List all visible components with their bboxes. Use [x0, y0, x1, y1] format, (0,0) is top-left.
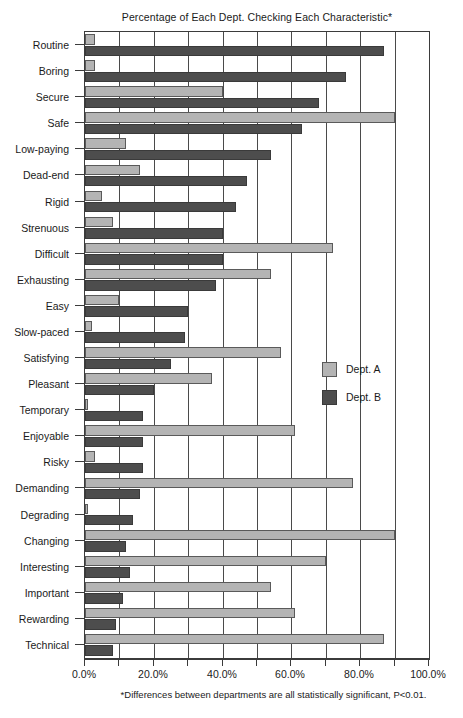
y-axis-label: Routine — [33, 39, 69, 51]
bar-dept-b — [85, 280, 216, 290]
bar-dept-a — [85, 34, 95, 44]
bar-group — [85, 32, 429, 58]
bar-dept-b — [85, 463, 143, 473]
bar-dept-a — [85, 530, 395, 540]
y-axis-label: Pleasant — [28, 378, 69, 390]
bar-dept-b — [85, 437, 143, 447]
legend-label-dept-a: Dept. A — [346, 363, 380, 375]
y-axis-label: Degrading — [21, 509, 69, 521]
y-axis-label: Changing — [24, 535, 69, 547]
legend-swatch-dept-a — [322, 362, 337, 377]
chart-footnote: *Differences between departments are all… — [84, 689, 463, 700]
bar-group — [85, 58, 429, 84]
bar-group — [85, 475, 429, 501]
x-axis-label: 80.0% — [344, 668, 374, 680]
bar-dept-b — [85, 332, 185, 342]
bar-dept-a — [85, 478, 353, 488]
x-axis-label: 100.0% — [410, 668, 446, 680]
bar-dept-a — [85, 582, 271, 592]
bar-dept-b — [85, 176, 247, 186]
y-axis-tick — [75, 148, 84, 149]
y-axis-tick — [75, 461, 84, 462]
bar-dept-b — [85, 124, 302, 134]
bar-dept-a — [85, 608, 295, 618]
y-axis-tick — [75, 514, 84, 515]
x-axis-label: 40.0% — [207, 668, 237, 680]
bar-dept-b — [85, 98, 319, 108]
y-axis-tick — [75, 357, 84, 358]
y-axis-label: Enjoyable — [23, 430, 69, 442]
legend-item-dept-b: Dept. B — [322, 383, 430, 411]
y-axis-tick — [75, 253, 84, 254]
x-axis-tick — [153, 659, 154, 666]
y-axis-tick — [75, 644, 84, 645]
y-axis-tick — [75, 331, 84, 332]
bar-dept-a — [85, 243, 333, 253]
bar-dept-a — [85, 504, 88, 514]
x-axis-tick — [394, 659, 395, 666]
y-axis-label: Slow-paced — [14, 326, 69, 338]
bar-group — [85, 267, 429, 293]
bar-dept-a — [85, 112, 395, 122]
y-axis-label: Safe — [47, 117, 69, 129]
y-axis-label: Difficult — [35, 248, 69, 260]
y-axis-label: Risky — [43, 456, 69, 468]
bar-dept-a — [85, 451, 95, 461]
bar-dept-b — [85, 541, 126, 551]
bar-dept-b — [85, 254, 223, 264]
bar-dept-a — [85, 269, 271, 279]
x-axis-tick — [428, 659, 429, 666]
chart-legend: Dept. A Dept. B — [322, 355, 430, 411]
bar-dept-b — [85, 515, 133, 525]
bar-dept-b — [85, 72, 346, 82]
x-axis-tick — [325, 659, 326, 666]
x-axis-label: 20.0% — [138, 668, 168, 680]
y-axis-label: Easy — [46, 300, 69, 312]
bar-chart: Percentage of Each Dept. Checking Each C… — [0, 0, 463, 718]
x-axis-tick — [84, 659, 85, 666]
y-axis-tick — [75, 227, 84, 228]
bar-dept-a — [85, 425, 295, 435]
bar-dept-b — [85, 567, 130, 577]
bar-dept-b — [85, 228, 223, 238]
bar-group — [85, 632, 429, 658]
plot-area — [84, 31, 430, 659]
bar-dept-a — [85, 295, 119, 305]
y-axis-tick — [75, 44, 84, 45]
y-axis-tick — [75, 70, 84, 71]
y-axis-label: Demanding — [15, 482, 69, 494]
y-axis-tick — [75, 435, 84, 436]
bar-dept-b — [85, 489, 140, 499]
bar-dept-a — [85, 86, 223, 96]
bar-group — [85, 110, 429, 136]
bar-dept-a — [85, 634, 384, 644]
y-axis-tick — [75, 305, 84, 306]
bar-group — [85, 319, 429, 345]
y-axis-tick — [75, 122, 84, 123]
y-axis-tick — [75, 566, 84, 567]
y-axis-label: Rewarding — [19, 613, 69, 625]
bar-group — [85, 293, 429, 319]
x-axis-tick — [187, 659, 188, 666]
bar-group — [85, 241, 429, 267]
bar-dept-a — [85, 347, 281, 357]
y-axis-label: Dead-end — [23, 169, 69, 181]
bar-dept-a — [85, 191, 102, 201]
bar-group — [85, 189, 429, 215]
y-axis-tick — [75, 618, 84, 619]
bar-dept-b — [85, 645, 113, 655]
x-axis-label: 0.0% — [72, 668, 96, 680]
y-axis-tick — [75, 96, 84, 97]
bar-group — [85, 423, 429, 449]
y-axis-tick — [75, 409, 84, 410]
bar-dept-a — [85, 60, 95, 70]
y-axis-tick — [75, 201, 84, 202]
bar-dept-b — [85, 411, 143, 421]
y-axis-tick — [75, 487, 84, 488]
y-axis-label: Secure — [36, 91, 69, 103]
y-axis-label: Strenuous — [21, 222, 69, 234]
bar-dept-a — [85, 138, 126, 148]
bar-group — [85, 136, 429, 162]
bar-group — [85, 84, 429, 110]
x-axis-tick — [256, 659, 257, 666]
